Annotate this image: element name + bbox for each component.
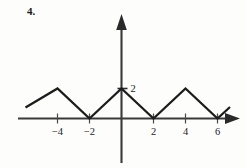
y-axis-arrowhead-icon [116, 14, 127, 30]
x-axis-arrowhead-icon [225, 113, 240, 124]
triangle-wave-curve [26, 89, 231, 119]
x-tick-label-neg2: −2 [84, 126, 95, 137]
x-tick-label-4: 4 [183, 126, 189, 137]
x-tick-label-2: 2 [151, 126, 156, 137]
x-tick-label-6: 6 [215, 126, 220, 137]
x-tick-label-neg4: −4 [52, 126, 64, 137]
triangle-wave-graph: −4 −2 2 4 6 2 [0, 0, 246, 168]
y-axis-value-label-2: 2 [131, 83, 136, 94]
figure-root: 4. −4 −2 2 4 6 2 [0, 0, 246, 168]
